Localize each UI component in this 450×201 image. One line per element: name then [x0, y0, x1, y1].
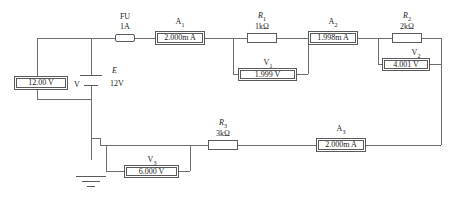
ammeter-a2[interactable]: 1.998m A	[308, 31, 358, 45]
wire-v2-branch-left	[378, 38, 379, 64]
battery-long-plate	[80, 75, 102, 76]
r1-subscript: 1	[263, 16, 266, 22]
fuse-rating-label: 1A	[105, 22, 145, 31]
wire-right-rail	[441, 38, 442, 145]
wire-fuse-to-a1	[135, 38, 155, 39]
ammeter-a1-reading: 2.000m A	[157, 33, 203, 43]
ammeter-a1[interactable]: 2.000m A	[155, 31, 205, 45]
ammeter-a2-designator-label: A2	[313, 17, 353, 30]
wire-a1-to-r1node	[205, 38, 233, 39]
wire-a2-to-r2node	[358, 38, 378, 39]
wire-bottom-left-step-top	[91, 138, 101, 139]
r3-subscript: 3	[224, 123, 227, 129]
ammeter-a1-designator-label: A1	[160, 17, 200, 30]
r2-subscript: 2	[408, 16, 411, 22]
resistor-r3-body[interactable]	[208, 140, 238, 150]
a2-subscript: 2	[334, 22, 337, 28]
resistor-r1-body[interactable]	[247, 33, 277, 43]
wire-bottom-left-step	[100, 138, 101, 146]
wire-a3-to-r3node	[290, 145, 316, 146]
wire-v1-branch-left	[233, 38, 234, 74]
wire-r3-right-lead	[238, 145, 290, 146]
ammeter-a2-reading: 1.998m A	[310, 33, 356, 43]
wire-r3-left-lead	[100, 145, 208, 146]
voltmeter-v2-reading: 4.001 V	[384, 60, 428, 69]
ground-bar-1	[76, 176, 106, 177]
ammeter-a3[interactable]: 2.000m A	[316, 138, 366, 152]
fuse-designator-label: FU	[105, 12, 145, 21]
resistor-r2-body[interactable]	[392, 33, 422, 43]
source-designator-label: E	[112, 66, 132, 75]
a1-subscript: 1	[181, 22, 184, 28]
voltmeter-v3-reading: 6.000 V	[126, 167, 177, 176]
ground-bar-3	[87, 186, 95, 187]
wire-v3-branch-right	[190, 145, 191, 171]
resistor-r2-value-label: 2kΩ	[387, 22, 427, 31]
wire-top-left	[37, 38, 115, 39]
ground-bar-2	[82, 181, 100, 182]
voltmeter-v1-reading: 1.999 V	[240, 70, 295, 79]
wire-r1-left-lead	[233, 38, 247, 39]
wire-source-bottom	[91, 85, 92, 160]
wire-r1-right-lead	[277, 38, 308, 39]
voltmeter-v2[interactable]: 4.001 V	[382, 58, 430, 71]
voltmeter-main[interactable]: 12.00 V	[14, 76, 68, 90]
wire-bottom-right	[366, 145, 441, 146]
wire-v3-branch-bottom-left	[106, 171, 124, 172]
ammeter-a3-designator-label: A3	[321, 124, 361, 137]
wire-r2-right-lead	[422, 38, 441, 39]
wire-v3-branch-bottom-right	[179, 171, 190, 172]
source-value-label: 12V	[110, 79, 134, 88]
fuse-body[interactable]	[115, 34, 135, 42]
wire-v3-branch-left	[106, 145, 107, 171]
resistor-r1-value-label: 1kΩ	[242, 22, 282, 31]
voltmeter-v3[interactable]: 6.000 V	[124, 165, 179, 178]
ammeter-a3-reading: 2.000m A	[318, 140, 364, 150]
wire-v2-branch-bottom-right	[430, 64, 441, 65]
wire-vmain-bottom	[37, 99, 91, 100]
voltmeter-main-designator-label: V	[71, 80, 83, 89]
resistor-r3-value-label: 3kΩ	[203, 129, 243, 138]
a3-subscript: 3	[342, 129, 345, 135]
circuit-diagram-canvas: FU 1A R1 1kΩ R2 2kΩ R3 3kΩ A1 2.000m A A…	[0, 0, 450, 201]
battery-short-plate	[84, 85, 98, 86]
voltmeter-v1[interactable]: 1.999 V	[238, 68, 297, 81]
wire-source-top	[91, 38, 92, 75]
wire-v1-branch-bottom-right	[297, 74, 308, 75]
wire-r2-left-lead	[378, 38, 392, 39]
voltmeter-main-reading: 12.00 V	[16, 78, 66, 88]
